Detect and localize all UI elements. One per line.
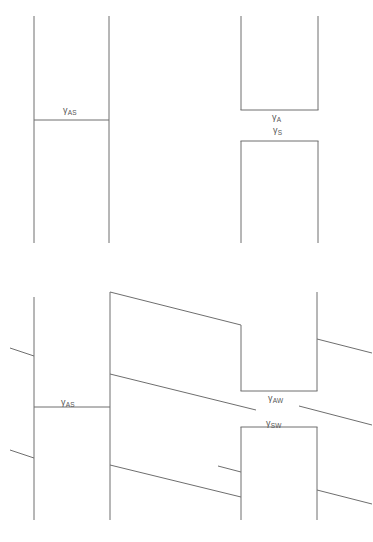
bottom-water-lines-left <box>10 348 34 458</box>
water-slant-sw-left <box>218 466 241 472</box>
gamma-symbol: γ <box>63 105 68 115</box>
water-slant-left-upper <box>10 348 34 356</box>
figure-caption <box>18 531 363 542</box>
gamma-symbol: γ <box>268 393 273 403</box>
bottom-sw-block <box>241 427 318 520</box>
water-slant-mid <box>110 374 256 410</box>
diagram-canvas <box>0 0 373 542</box>
label-gamma-as-top: γAS <box>63 106 77 115</box>
bottom-aw-block <box>241 292 318 391</box>
label-gamma-sw-bottom: γSW <box>266 419 282 428</box>
water-slant-right-upper <box>317 339 372 353</box>
label-gamma-as-bottom: γAS <box>61 398 75 407</box>
top-s-block <box>241 141 319 243</box>
label-gamma-s-top: γS <box>273 126 282 135</box>
bottom-water-lines-right-upper <box>299 339 372 425</box>
water-slant-left-lower <box>10 450 34 458</box>
water-slant-top <box>110 292 241 325</box>
top-as-block <box>34 16 109 243</box>
bottom-water-lines-middle <box>110 292 256 497</box>
gamma-subscript: SW <box>271 422 282 429</box>
gamma-symbol: γ <box>272 112 277 122</box>
top-a-block <box>241 16 319 110</box>
label-gamma-aw-bottom: γAW <box>268 394 284 403</box>
gamma-subscript: S <box>278 129 283 136</box>
water-slant-right-mid <box>299 406 372 425</box>
gamma-subscript: AS <box>68 109 77 116</box>
gamma-subscript: AS <box>66 401 75 408</box>
water-slant-lower <box>110 465 241 497</box>
gamma-subscript: A <box>277 116 282 123</box>
gamma-symbol: γ <box>61 397 66 407</box>
water-slant-sw-right <box>317 490 372 504</box>
gamma-symbol: γ <box>273 125 278 135</box>
figure-container: γAS γA γS γAS γAW γSW <box>0 0 373 542</box>
gamma-symbol: γ <box>266 418 271 428</box>
gamma-subscript: AW <box>273 397 284 404</box>
label-gamma-a-top: γA <box>272 113 281 122</box>
